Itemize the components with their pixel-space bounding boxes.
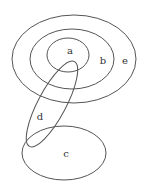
label-a: a xyxy=(67,45,73,56)
set-d: d xyxy=(17,55,87,153)
label-e: e xyxy=(122,55,128,66)
label-b: b xyxy=(100,55,106,66)
set-a: a xyxy=(47,38,89,72)
set-c: c xyxy=(22,126,106,180)
ellipse-d xyxy=(17,55,87,153)
label-d: d xyxy=(37,111,44,122)
set-diagram: e b a d c xyxy=(0,0,147,188)
label-c: c xyxy=(63,148,69,159)
